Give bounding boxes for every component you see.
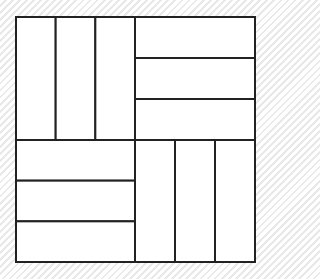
- bottom-left-strip-2: [16, 181, 135, 222]
- bottom-right-strip-2: [175, 140, 215, 262]
- bottom-right-strip-1: [135, 140, 175, 262]
- parquet-diagram: [0, 0, 272, 279]
- bottom-right-strip-3: [215, 140, 255, 262]
- top-right-strip-1: [135, 17, 255, 58]
- top-left-strip-2: [56, 17, 96, 140]
- top-right-strip-3: [135, 99, 255, 140]
- bottom-left-strip-3: [16, 221, 135, 262]
- top-left-strip-3: [95, 17, 135, 140]
- bottom-left-strip-1: [16, 140, 135, 181]
- top-right-strip-2: [135, 58, 255, 99]
- top-left-strip-1: [16, 17, 56, 140]
